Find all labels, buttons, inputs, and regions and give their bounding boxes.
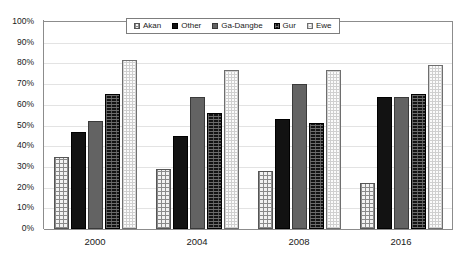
x-axis-tick-label: 2016 (390, 236, 411, 247)
bar-gadangbe-2000 (88, 121, 103, 229)
bar-gur-2016 (411, 94, 426, 229)
bar-gur-2000 (105, 94, 120, 229)
y-axis-tick-label: 70% (17, 79, 34, 88)
bar-ewe-2000 (122, 60, 137, 229)
x-axis-tick-label: 2008 (288, 236, 309, 247)
bar-other-2004 (173, 136, 188, 229)
x-axis-tick-label: 2000 (84, 236, 105, 247)
bar-gadangbe-2016 (394, 97, 409, 229)
legend-swatch-icon-other (172, 23, 178, 29)
y-axis: 100%90%80%70%60%50%40%30%20%10%0% (0, 0, 38, 264)
legend-label: Gur (283, 22, 296, 30)
legend-swatch-icon-gadangbe (212, 23, 218, 29)
legend-label: Ewe (316, 22, 332, 30)
legend-entry-other[interactable]: Other (172, 22, 201, 30)
legend-entry-gadangbe[interactable]: Ga-Dangbe (212, 22, 262, 30)
legend-label: Akan (143, 22, 161, 30)
bar-other-2008 (275, 119, 290, 229)
bar-ewe-2016 (428, 65, 443, 229)
bar-chart: 100%90%80%70%60%50%40%30%20%10%0% 200020… (0, 0, 475, 264)
legend: AkanOtherGa-DangbeGurEwe (126, 18, 340, 34)
plot-area (44, 21, 453, 230)
y-axis-tick-label: 10% (17, 203, 34, 212)
y-axis-tick-label: 0% (22, 224, 34, 233)
bar-other-2016 (377, 97, 392, 229)
bar-akan-2016 (360, 183, 375, 229)
x-axis: 2000200420082016 (44, 236, 452, 256)
y-axis-tick-label: 20% (17, 182, 34, 191)
legend-swatch-icon-ewe (307, 23, 313, 29)
y-axis-tick-label: 90% (17, 37, 34, 46)
y-axis-tick-label: 30% (17, 162, 34, 171)
y-axis-tick-label: 80% (17, 58, 34, 67)
bar-group-2004 (156, 22, 239, 229)
x-axis-tick-label: 2004 (186, 236, 207, 247)
bar-gadangbe-2008 (292, 84, 307, 229)
legend-swatch-icon-akan (134, 23, 140, 29)
bar-akan-2004 (156, 169, 171, 229)
legend-entry-ewe[interactable]: Ewe (307, 22, 332, 30)
bar-group-2016 (360, 22, 443, 229)
legend-entry-gur[interactable]: Gur (274, 22, 296, 30)
legend-label: Other (181, 22, 201, 30)
bar-gur-2004 (207, 113, 222, 229)
legend-swatch-icon-gur (274, 23, 280, 29)
bar-other-2000 (71, 132, 86, 229)
legend-entry-akan[interactable]: Akan (134, 22, 161, 30)
bar-akan-2008 (258, 171, 273, 229)
bar-ewe-2004 (224, 70, 239, 229)
bar-group-2000 (54, 22, 137, 229)
y-axis-tick-label: 60% (17, 100, 34, 109)
y-axis-tick-label: 100% (12, 17, 34, 26)
bar-group-2008 (258, 22, 341, 229)
bar-akan-2000 (54, 157, 69, 229)
y-axis-tick-label: 50% (17, 120, 34, 129)
bar-ewe-2008 (326, 70, 341, 229)
y-axis-tick-label: 40% (17, 141, 34, 150)
legend-label: Ga-Dangbe (221, 22, 262, 30)
bar-gur-2008 (309, 123, 324, 229)
bar-gadangbe-2004 (190, 97, 205, 229)
